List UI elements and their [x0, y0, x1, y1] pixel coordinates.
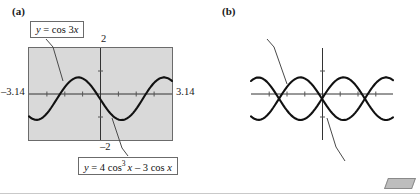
leader-line-a1 [46, 39, 63, 81]
x-max-label-a: 3.14 [176, 86, 194, 97]
corner-tab-mark [384, 178, 416, 189]
leader-line-b2 [327, 118, 345, 161]
plot-area-b [210, 0, 420, 194]
leader-line-b1 [267, 39, 287, 84]
y-min-label-a: –2 [100, 141, 111, 152]
callout-identity-a-text: y = 4 cos3 x – 3 cos x [84, 159, 172, 173]
leader-line-a2 [112, 118, 128, 156]
panel-b: (b) [210, 0, 420, 194]
x-min-label-a: –3.14 [1, 86, 25, 97]
bottom-divider [0, 193, 420, 194]
callout-identity-a: y = 4 cos3 x – 3 cos x [78, 157, 178, 175]
callout-cos3x-a: y = cos 3x [30, 21, 84, 38]
callout-cos3x-a-text: y = cos 3x [36, 24, 78, 35]
y-max-label-a: 2 [101, 33, 106, 44]
trig-graphs-figure: (a) [0, 0, 420, 194]
panel-a: (a) [0, 0, 210, 194]
